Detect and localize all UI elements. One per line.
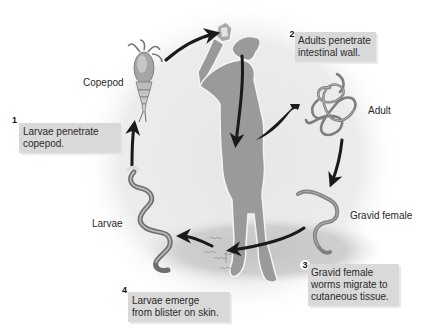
label-gravid-female: Gravid female [350,211,412,221]
step-2-box: Adults penetrate intestinal wall. [295,32,376,62]
step-2-line-1: Adults penetrate [298,35,370,47]
step-1-line-2: copepod. [23,138,115,150]
life-cycle-diagram: Copepod Adult Gravid female Larvae 1 Lar… [0,0,424,329]
label-copepod: Copepod [83,78,124,88]
label-adult: Adult [368,106,391,116]
step-3-box: Gravid female worms migrate to cutaneous… [308,264,399,306]
step-3-line-2: worms migrate to [311,279,393,291]
step-3-line-1: Gravid female [311,267,393,279]
step-4-line-2: from blister on skin. [132,307,224,319]
step-1-number: 1 [12,116,17,125]
step-4-number: 4 [122,286,127,295]
step-1-box: Larvae penetrate copepod. [19,123,121,153]
label-larvae: Larvae [92,219,123,229]
step-4-line-1: Larvae emerge [132,295,224,307]
step-2-line-2: intestinal wall. [298,47,370,59]
step-3-line-3: cutaneous tissue. [311,291,393,303]
step-1-line-1: Larvae penetrate [23,126,115,138]
step-4-box: Larvae emerge from blister on skin. [128,292,230,322]
